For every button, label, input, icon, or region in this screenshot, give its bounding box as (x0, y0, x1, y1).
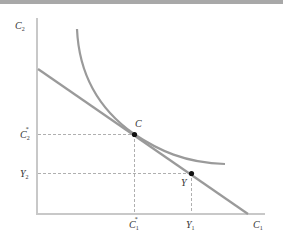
point-c-marker (132, 132, 137, 137)
y-axis-label-sub: 2 (22, 26, 25, 32)
x-axis-label-sub: 1 (260, 225, 263, 231)
x-tick-c1star: C1* (129, 216, 139, 231)
y-tick-y2: Y2 (20, 168, 29, 180)
x-tick-y1-sub: 1 (192, 225, 195, 231)
point-y-label: Y (181, 177, 188, 188)
consumption-diagram: C Y C2 C2* Y2 C1* Y1 C1 (0, 0, 283, 243)
budget-line (38, 69, 248, 214)
point-c-label: C (135, 118, 142, 129)
y-tick-y2-sub: 2 (26, 174, 29, 180)
indifference-curve (77, 29, 225, 164)
y-tick-c2star-sub: 2 (27, 135, 30, 141)
x-tick-c1star-sub: 1 (136, 225, 139, 231)
y-axis-label: C2 (15, 20, 25, 32)
x-axis-label: C1 (253, 219, 263, 231)
y-tick-c2star: C2* (20, 126, 30, 141)
point-y-marker (189, 171, 194, 176)
y-tick-c2star-sup: * (26, 126, 29, 132)
x-tick-y1: Y1 (186, 219, 195, 231)
x-tick-c1star-sup: * (135, 216, 138, 222)
